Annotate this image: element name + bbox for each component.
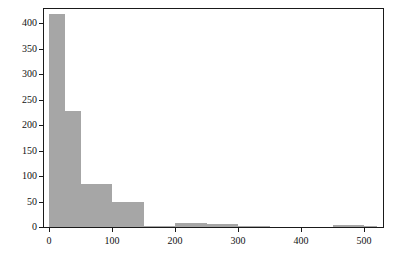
histogram-bar xyxy=(49,14,65,227)
x-axis-label: 100 xyxy=(105,236,120,246)
y-axis-label: 300 xyxy=(22,69,37,79)
y-axis-label: 400 xyxy=(22,18,37,28)
y-axis-tick xyxy=(39,23,44,24)
y-axis-label: 0 xyxy=(32,222,37,232)
y-axis-tick xyxy=(39,227,44,228)
x-axis-label: 400 xyxy=(294,236,309,246)
y-axis-label: 350 xyxy=(22,44,37,54)
histogram-bar xyxy=(333,225,365,227)
histogram-bar xyxy=(112,202,144,227)
histogram-bar xyxy=(207,224,239,227)
bar-series xyxy=(44,9,383,227)
y-axis-label: 50 xyxy=(27,197,37,207)
histogram-bar xyxy=(81,184,97,227)
histogram-bar xyxy=(175,223,207,227)
y-axis-tick xyxy=(39,125,44,126)
y-axis-label: 150 xyxy=(22,146,37,156)
x-axis-tick xyxy=(238,227,239,232)
x-axis-tick xyxy=(364,227,365,232)
x-axis-tick xyxy=(301,227,302,232)
x-axis-tick xyxy=(112,227,113,232)
x-axis-label: 300 xyxy=(231,236,246,246)
y-axis-tick xyxy=(39,202,44,203)
histogram-figure: 0501001502002503003504000100200300400500 xyxy=(0,0,399,259)
y-axis-tick xyxy=(39,74,44,75)
x-axis-label: 0 xyxy=(47,236,52,246)
y-axis-label: 100 xyxy=(22,171,37,181)
y-axis-tick xyxy=(39,49,44,50)
histogram-bar xyxy=(364,226,377,227)
plot-area: 0501001502002503003504000100200300400500 xyxy=(43,8,384,228)
y-axis-tick xyxy=(39,176,44,177)
y-axis-label: 250 xyxy=(22,95,37,105)
y-axis-label: 200 xyxy=(22,120,37,130)
y-axis-tick xyxy=(39,151,44,152)
x-axis-tick xyxy=(175,227,176,232)
histogram-bar xyxy=(96,184,112,227)
x-axis-tick xyxy=(49,227,50,232)
histogram-bar xyxy=(144,226,176,227)
y-axis-tick xyxy=(39,100,44,101)
x-axis-label: 200 xyxy=(168,236,183,246)
histogram-bar xyxy=(238,226,270,227)
histogram-bar xyxy=(65,111,81,227)
x-axis-label: 500 xyxy=(357,236,372,246)
